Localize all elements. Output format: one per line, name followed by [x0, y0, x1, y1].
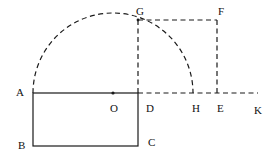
label-o: O [110, 102, 118, 114]
label-f: F [218, 5, 224, 17]
label-h: H [192, 102, 200, 114]
point-o [111, 91, 114, 94]
point-g [137, 19, 140, 22]
rectangle-abcd [33, 93, 138, 146]
label-g: G [136, 5, 144, 17]
label-c: C [148, 136, 155, 148]
label-b: B [18, 139, 25, 151]
label-d: D [146, 102, 154, 114]
label-k: K [254, 104, 262, 116]
label-e: E [217, 102, 224, 114]
geometry-diagram: A B C D O H E K G F [0, 0, 275, 159]
label-a: A [16, 86, 24, 98]
semicircle-arc [33, 13, 193, 93]
